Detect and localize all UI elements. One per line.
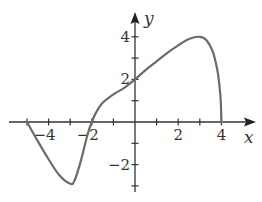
y-axis-label: y: [143, 8, 154, 28]
x-axis-label: x: [244, 127, 254, 147]
y-tick-label: −2: [108, 156, 130, 174]
function-graph: −4−224 x 42−2 y: [0, 0, 262, 202]
x-axis: −4−224 x: [9, 118, 256, 148]
y-tick-label: 4: [120, 28, 130, 46]
y-axis: 42−2 y: [108, 8, 154, 192]
x-tick-label: 4: [217, 126, 227, 144]
x-tick-label: 2: [173, 126, 183, 144]
